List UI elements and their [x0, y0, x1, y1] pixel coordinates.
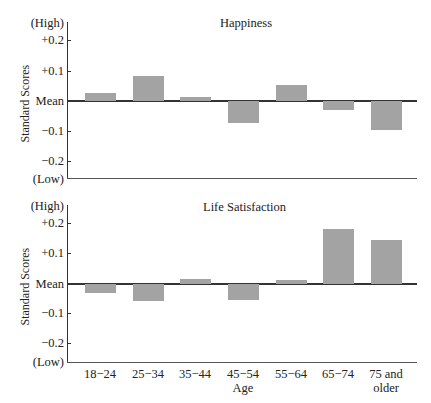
- chart-title: Life Satisfaction: [203, 200, 286, 215]
- x-tick-label-75-line2: older: [356, 381, 416, 395]
- bar-55-64: [276, 280, 307, 284]
- x-axis: [67, 362, 417, 363]
- tick: [67, 223, 71, 224]
- tick-label-minus-0-2: −0.2: [41, 336, 64, 350]
- bar-25-34: [133, 284, 164, 301]
- tick-label-plus-0-2: +0.2: [41, 216, 64, 230]
- x-tick-label-75-line1: 75 and: [356, 367, 416, 381]
- tick: [67, 343, 71, 344]
- tick-label-mean: Mean: [36, 277, 64, 291]
- bar-35-44: [180, 279, 211, 284]
- tick-label-minus-0-1: −0.1: [41, 306, 64, 320]
- x-axis-title: Age: [223, 381, 263, 396]
- bar-65-74: [323, 229, 354, 284]
- y-axis-label: Standard Scores: [18, 256, 33, 326]
- tick-label-high: (High): [31, 199, 64, 213]
- tick-label-low: (Low): [33, 355, 64, 369]
- bar-18-24: [85, 284, 116, 293]
- bar-75-and-older: [371, 240, 402, 284]
- bar-45-54: [228, 284, 259, 300]
- tick: [67, 313, 71, 314]
- life-satisfaction-chart: Life Satisfaction Standard Scores (High)…: [0, 0, 431, 403]
- tick: [67, 253, 71, 254]
- tick-label-plus-0-1: +0.1: [41, 246, 64, 260]
